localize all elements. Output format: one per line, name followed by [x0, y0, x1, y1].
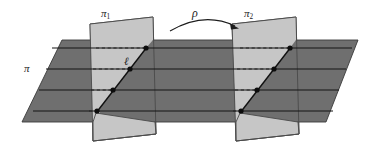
- label-rotation-rho: ρ: [192, 7, 198, 19]
- dot-pi2-4: [238, 108, 243, 113]
- geometry-figure: [0, 0, 371, 157]
- label-line-ell: ℓ: [124, 56, 129, 67]
- label-plane-pi1: π1: [101, 8, 110, 21]
- label-plane-pi2: π2: [244, 8, 253, 21]
- plane-pi: [22, 40, 358, 122]
- dot-pi2-1: [287, 45, 292, 50]
- dot-pi1-3: [110, 87, 115, 92]
- diagram-canvas: π π1 π2 ρ ℓ: [0, 0, 371, 157]
- label-plane-pi2-subscript: 2: [250, 13, 254, 21]
- dot-pi2-3: [254, 87, 259, 92]
- dot-pi2-2: [271, 66, 276, 71]
- label-plane-pi1-subscript: 1: [107, 13, 111, 21]
- dot-pi1-2: [127, 66, 132, 71]
- label-plane-pi: π: [24, 63, 30, 74]
- rotation-arrow: [170, 20, 239, 31]
- dot-pi1-1: [143, 45, 148, 50]
- dot-pi1-4: [94, 108, 99, 113]
